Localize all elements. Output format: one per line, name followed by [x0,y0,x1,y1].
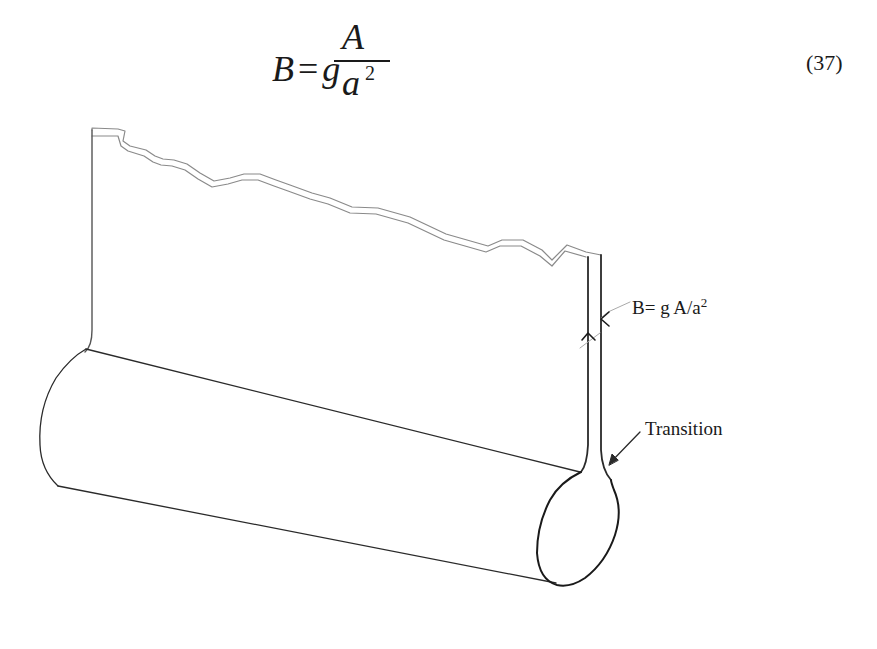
cylinder-top-line [86,349,580,472]
plate-inner-edge [581,257,588,472]
cylinder-end-section [537,472,619,586]
cylinder-bottom-line [58,486,556,583]
plate-outer-edge [601,255,611,480]
thickness-label: B= g A/a2 [632,295,707,319]
plate-cylinder-diagram [0,0,877,649]
plate-left-edge [85,130,92,352]
thickness-label-text: B= g A/a [632,297,701,318]
cylinder-left-cap [40,349,86,486]
transition-label: Transition [645,418,722,440]
break-line [92,128,601,266]
transition-arrow [609,432,640,465]
thickness-label-exponent: 2 [701,295,708,310]
